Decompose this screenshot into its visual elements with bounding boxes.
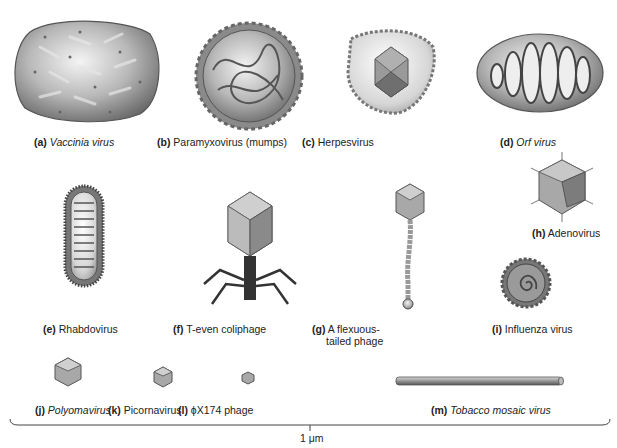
label-picornavirus: (k) Picornavirus	[108, 404, 182, 416]
label-adenovirus: (h) Adenovirus	[532, 227, 600, 239]
orf-virus-illustration	[475, 32, 605, 114]
flexuous-tailed-phage-illustration	[390, 182, 430, 312]
paramyxovirus-illustration	[193, 20, 305, 132]
label-phix174-phage: (l) ϕX174 phage	[178, 404, 253, 416]
label-polyomavirus: (j) Polyomavirus	[35, 404, 111, 416]
polyomavirus-illustration	[53, 357, 83, 387]
label-herpesvirus: (c) Herpesvirus	[302, 136, 374, 148]
label-t-even-coliphage: (f) T-even coliphage	[173, 323, 266, 335]
label-rhabdovirus: (e) Rhabdovirus	[43, 323, 118, 335]
herpesvirus-illustration	[343, 27, 439, 115]
picornavirus-illustration	[152, 366, 174, 388]
label-influenza-virus: (i) Influenza virus	[492, 323, 573, 335]
scale-bar-label: 1 μm	[300, 432, 324, 444]
influenza-virus-illustration	[500, 257, 552, 309]
label-tobacco-mosaic-virus: (m) Tobacco mosaic virus	[431, 404, 551, 416]
t-even-coliphage-illustration	[200, 190, 300, 312]
label-flexuous-tailed-phage: (g) A flexuous-tailed phage	[312, 323, 383, 347]
label-vaccinia-virus: (a) Vaccinia virus	[34, 136, 114, 148]
phix174-phage-illustration	[241, 371, 255, 385]
scale-bracket	[8, 418, 612, 432]
tobacco-mosaic-virus-illustration	[395, 376, 565, 386]
label-paramyxovirus: (b) Paramyxovirus (mumps)	[157, 136, 287, 148]
label-orf-virus: (d) Orf virus	[500, 136, 556, 148]
rhabdovirus-illustration	[62, 183, 106, 289]
adenovirus-illustration	[527, 152, 597, 222]
vaccinia-virus-illustration	[10, 12, 160, 124]
